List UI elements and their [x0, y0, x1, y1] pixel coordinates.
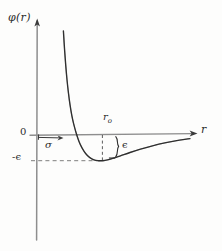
r-zero-label-subscript: o: [108, 117, 112, 125]
x-axis-label: r: [201, 124, 206, 135]
y-axis: [34, 19, 40, 241]
epsilon-brace: [116, 137, 119, 158]
x-axis: [30, 130, 198, 136]
origin-label: 0: [20, 127, 26, 137]
y-axis-label: φ(r): [8, 12, 31, 23]
neg-epsilon-label: -ϵ: [12, 152, 21, 162]
r-zero-label: ro: [103, 112, 112, 125]
lennard-jones-potential-figure: φ(r) r 0 σ ro ϵ -ϵ: [0, 0, 222, 251]
plot-canvas: [0, 0, 222, 251]
epsilon-depth-label: ϵ: [122, 140, 128, 150]
sigma-label: σ: [45, 140, 52, 150]
